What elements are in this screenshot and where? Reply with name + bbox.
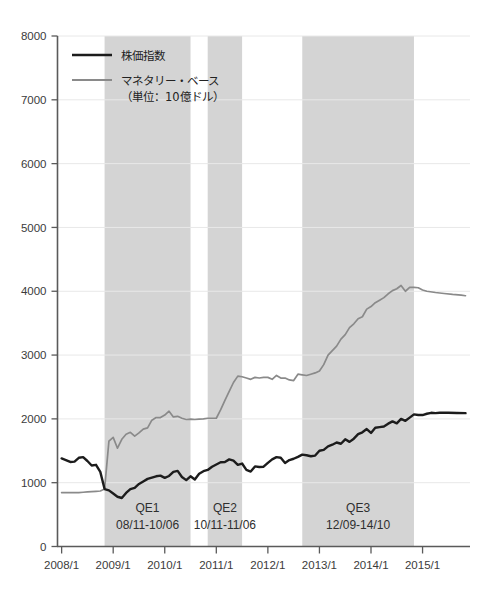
x-tick-label-2009/1: 2009/1	[96, 559, 131, 571]
qe-label-range-qe1: 08/11-10/06	[116, 518, 179, 532]
qe-label-title-qe2: QE2	[213, 501, 237, 515]
legend-label-monetary-base: マネタリー・ベース	[121, 74, 219, 88]
x-tick-label-2014/1: 2014/1	[353, 559, 388, 571]
line-chart: 010002000300040005000600070008000 2008/1…	[0, 0, 482, 594]
x-tick-label-2015/1: 2015/1	[405, 559, 440, 571]
x-tick-label-2012/1: 2012/1	[250, 559, 285, 571]
x-tick-label-2008/1: 2008/1	[44, 559, 79, 571]
legend-label-stock-index: 株価指数	[121, 49, 166, 63]
qe-label-range-qe3: 12/09-14/10	[326, 518, 390, 532]
legend-label-monetary-base-unit: （単位：10億ドル）	[121, 90, 224, 104]
qe-label-title-qe1: QE1	[136, 501, 160, 515]
y-tick-label-4000: 4000	[21, 285, 47, 297]
qe-label-title-qe3: QE3	[346, 501, 370, 515]
y-tick-label-2000: 2000	[21, 413, 47, 425]
y-tick-label-3000: 3000	[21, 349, 47, 361]
y-tick-label-0: 0	[40, 541, 46, 553]
x-tick-label-2013/1: 2013/1	[302, 559, 337, 571]
x-tick-label-2010/1: 2010/1	[147, 559, 182, 571]
qe-label-range-qe2: 10/11-11/06	[194, 518, 257, 532]
x-tick-label-2011/1: 2011/1	[199, 559, 233, 571]
chart-page: 010002000300040005000600070008000 2008/1…	[0, 0, 482, 594]
y-tick-label-1000: 1000	[21, 477, 47, 489]
y-tick-label-5000: 5000	[21, 222, 47, 234]
y-tick-label-7000: 7000	[21, 94, 47, 106]
y-tick-label-6000: 6000	[21, 158, 47, 170]
y-tick-label-8000: 8000	[21, 30, 47, 42]
